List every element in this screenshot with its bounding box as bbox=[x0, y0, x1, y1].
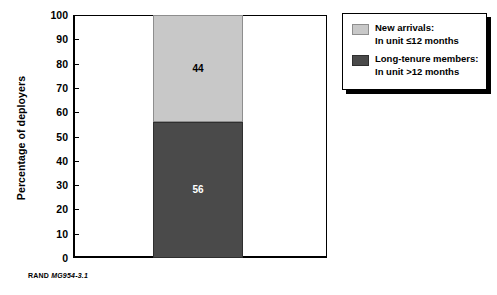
y-axis-tick-label: 90 bbox=[56, 34, 68, 45]
y-axis-tick-label: 40 bbox=[56, 156, 68, 167]
y-axis-tick-label: 30 bbox=[56, 180, 68, 191]
y-axis-tick bbox=[73, 234, 79, 235]
legend-label-new-arrivals-line1: New arrivals: bbox=[375, 22, 434, 33]
bar-segment-new-arrivals[interactable]: 44 bbox=[153, 15, 243, 122]
plot-area: 0102030405060708090100 44 56 bbox=[73, 15, 327, 258]
y-axis-tick-label: 80 bbox=[56, 58, 68, 69]
y-axis-tick bbox=[73, 185, 79, 186]
legend-label-long-tenure: Long-tenure members: In unit >12 months bbox=[375, 53, 478, 78]
bar-segment-long-tenure[interactable]: 56 bbox=[153, 122, 243, 258]
credit-figure-code: MG954-3.1 bbox=[51, 272, 88, 279]
legend-swatch-long-tenure bbox=[352, 55, 369, 66]
bar-segment-value-new-arrivals: 44 bbox=[192, 63, 203, 74]
y-axis-tick-label: 20 bbox=[56, 204, 68, 215]
legend-label-long-tenure-line1: Long-tenure members: bbox=[375, 53, 478, 64]
stacked-bar[interactable]: 44 56 bbox=[153, 15, 243, 258]
y-axis-tick bbox=[73, 64, 79, 65]
y-axis-tick bbox=[73, 137, 79, 138]
legend-label-long-tenure-line2: In unit >12 months bbox=[375, 66, 459, 77]
y-axis-tick-label: 70 bbox=[56, 83, 68, 94]
legend-label-new-arrivals: New arrivals: In unit ≤12 months bbox=[375, 22, 459, 47]
y-axis-title: Percentage of deployers bbox=[15, 38, 27, 238]
legend-entry-new-arrivals[interactable]: New arrivals: In unit ≤12 months bbox=[352, 22, 486, 47]
y-axis-tick-label: 10 bbox=[56, 228, 68, 239]
figure-credit: RAND MG954-3.1 bbox=[28, 272, 88, 279]
bar-segment-value-long-tenure: 56 bbox=[192, 184, 203, 195]
figure: Percentage of deployers 0102030405060708… bbox=[0, 0, 497, 295]
y-axis-tick bbox=[73, 209, 79, 210]
y-axis-tick bbox=[73, 112, 79, 113]
legend-label-new-arrivals-line2: In unit ≤12 months bbox=[375, 35, 459, 46]
y-axis-tick-label: 0 bbox=[62, 253, 68, 264]
y-axis-tick bbox=[73, 161, 79, 162]
legend-entry-long-tenure[interactable]: Long-tenure members: In unit >12 months bbox=[352, 53, 486, 78]
legend: New arrivals: In unit ≤12 months Long-te… bbox=[342, 13, 487, 90]
y-axis-tick-label: 50 bbox=[56, 131, 68, 142]
credit-organization: RAND bbox=[28, 272, 49, 279]
y-axis-tick bbox=[73, 88, 79, 89]
y-axis-tick bbox=[73, 39, 79, 40]
legend-swatch-new-arrivals bbox=[352, 24, 369, 35]
y-axis-tick-label: 60 bbox=[56, 107, 68, 118]
y-axis-tick-label: 100 bbox=[50, 10, 68, 21]
